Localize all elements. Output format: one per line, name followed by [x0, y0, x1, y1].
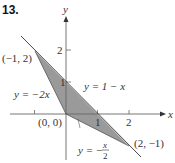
y-tick-label-2: 2 — [57, 44, 63, 56]
problem-number: 13. — [2, 3, 19, 17]
equation-label-1-minus-x: y = 1 − x — [83, 80, 125, 92]
y-axis-arrow-icon — [64, 16, 69, 22]
equation-fraction-denominator: 2 — [103, 151, 108, 161]
point-label-origin: (0, 0) — [38, 116, 62, 129]
chart-canvas: 13. y x 2 1 1 2 (−1, 2) (0, 0) (2, −1) y… — [0, 0, 175, 163]
equation-label-neg-2x: y = −2x — [13, 88, 50, 100]
x-tick-label-2: 2 — [126, 116, 132, 128]
x-axis-label: x — [167, 108, 173, 120]
point-label-2-neg1: (2, −1) — [134, 137, 164, 150]
x-axis-arrow-icon — [160, 112, 166, 117]
y-tick-label-1: 1 — [60, 76, 66, 88]
x-tick-label-1: 1 — [95, 116, 101, 128]
equation-label-neg-half-x: y = − — [77, 144, 103, 156]
y-axis-label: y — [62, 3, 68, 15]
point-label-neg1-2: (−1, 2) — [2, 52, 32, 65]
equation-fraction-numerator: x — [102, 140, 107, 150]
